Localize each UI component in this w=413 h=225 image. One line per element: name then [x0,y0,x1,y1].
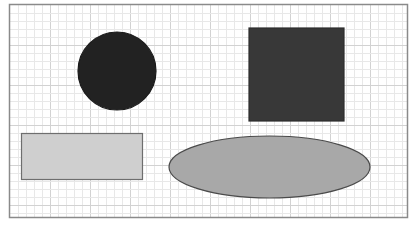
circle-shape[interactable] [78,32,156,110]
diagram-canvas [0,0,413,225]
diagram-svg [0,0,413,225]
rectangle-shape[interactable] [22,134,143,180]
square-shape[interactable] [249,28,344,121]
ellipse-shape[interactable] [169,136,370,198]
